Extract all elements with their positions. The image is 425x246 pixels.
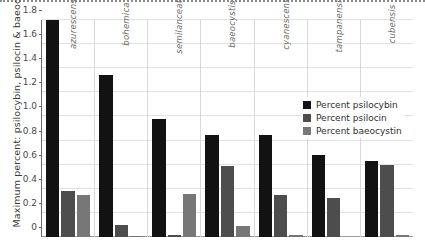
legend-label: Percent baeocystin	[316, 126, 402, 136]
bar-group-baeocystis: baeocystis	[201, 20, 254, 237]
bar-psilocin[interactable]	[168, 235, 181, 237]
bar-baeocystin[interactable]	[183, 194, 196, 237]
chart-legend: Percent psilocybinPercent psilocinPercen…	[301, 97, 404, 138]
y-axis-title: Maximum percent: psilocybin, psilocin & …	[11, 8, 22, 228]
y-axis-tick-label: 0.4	[23, 174, 42, 184]
y-axis-tick-label: 0.6	[23, 150, 42, 160]
legend-item-baeocystin[interactable]: Percent baeocystin	[303, 124, 402, 137]
bar-psilocybin[interactable]	[46, 20, 59, 237]
bar-psilocybin[interactable]	[99, 75, 112, 237]
legend-label: Percent psilocin	[316, 113, 387, 123]
y-axis-tick-label: 1.0	[23, 101, 42, 111]
bar-baeocystin[interactable]	[77, 195, 90, 237]
y-axis-tick-label: 0.2	[23, 198, 42, 208]
bars-container	[152, 20, 196, 237]
bar-psilocybin[interactable]	[312, 155, 325, 237]
y-axis-tick-label: 1.8	[23, 5, 42, 15]
legend-label: Percent psilocybin	[316, 100, 398, 110]
bar-psilocin[interactable]	[380, 165, 393, 237]
bar-baeocystin[interactable]	[289, 235, 302, 237]
y-axis-tick-label: 1.2	[23, 77, 42, 87]
bars-container	[205, 20, 249, 237]
legend-swatch-icon	[303, 114, 311, 122]
bar-baeocystin[interactable]	[396, 235, 409, 237]
bar-psilocin[interactable]	[274, 195, 287, 237]
bar-psilocin[interactable]	[327, 198, 340, 237]
bar-psilocybin[interactable]	[152, 119, 165, 237]
bars-container	[46, 20, 90, 237]
y-axis-tick-label: 0.8	[23, 126, 42, 136]
bar-group-cyanescens: cyanescens	[255, 20, 308, 237]
bar-psilocybin[interactable]	[205, 135, 218, 237]
y-axis-tick-label: 1.6	[23, 29, 42, 39]
legend-item-psilocin[interactable]: Percent psilocin	[303, 111, 402, 124]
bar-group-azurescens: azurescens	[42, 20, 95, 237]
bar-psilocin[interactable]	[61, 191, 74, 237]
bar-psilocin[interactable]	[221, 166, 234, 237]
bars-container	[259, 20, 303, 237]
y-axis-tick-label: 0	[31, 222, 42, 232]
chart-figure: Maximum percent: psilocybin, psilocin & …	[0, 0, 425, 246]
bar-baeocystin[interactable]	[130, 236, 143, 237]
bar-psilocybin[interactable]	[365, 161, 378, 237]
bar-psilocybin[interactable]	[259, 135, 272, 237]
bar-group-bohemica: bohemica	[95, 20, 148, 237]
bars-container	[99, 20, 143, 237]
bar-baeocystin[interactable]	[236, 226, 249, 237]
legend-swatch-icon	[303, 101, 311, 109]
y-axis-tick-label: 1.4	[23, 53, 42, 63]
legend-swatch-icon	[303, 127, 311, 135]
bar-psilocin[interactable]	[115, 225, 128, 237]
legend-item-psilocybin[interactable]: Percent psilocybin	[303, 98, 402, 111]
bar-group-semilanceata: semilanceata	[148, 20, 201, 237]
